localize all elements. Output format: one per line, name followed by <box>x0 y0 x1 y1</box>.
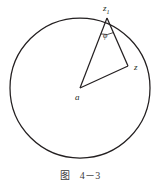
point-label-z: z <box>133 62 138 72</box>
point-label-z1: z1 <box>102 3 110 15</box>
geometric-diagram: z1 φ z a <box>0 0 161 185</box>
figure-container: z1 φ z a 图 4－3 <box>0 0 161 185</box>
point-label-a: a <box>75 92 80 102</box>
caption-number: 4－3 <box>80 167 101 182</box>
figure-caption: 图 4－3 <box>0 163 161 185</box>
segment-z1-to-z <box>107 18 128 66</box>
angle-label-phi: φ <box>103 31 108 40</box>
caption-label: 图 <box>60 167 70 182</box>
